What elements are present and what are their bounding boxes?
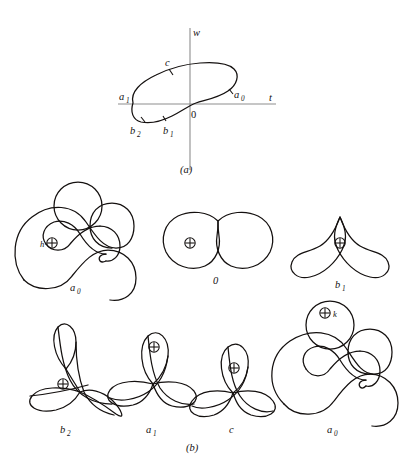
a0-first-inner-cap (99, 254, 106, 262)
a0-second-inner-cap (359, 380, 366, 388)
a1-index-marker (149, 342, 159, 352)
a0-first-label-text: a (70, 282, 75, 293)
a0-first-label: a 0 (70, 282, 81, 296)
point-label-b1-text: b (163, 125, 168, 136)
point-label-a0: a 0 (234, 89, 245, 103)
b1-label-sub: 1 (342, 285, 346, 293)
c-label: c (229, 424, 234, 435)
a1-label-sub: 1 (153, 430, 157, 438)
a0-second-label-sub: 0 (334, 430, 338, 438)
a1-label: a 1 (146, 424, 157, 438)
point-label-c: c (165, 57, 170, 68)
figure-zero: 0 (163, 212, 272, 286)
t-axis-label: t (269, 92, 273, 103)
b1-label-text: b (335, 279, 340, 290)
a1-right-loop (153, 382, 196, 407)
a0-first-outer-path (15, 203, 134, 280)
point-label-b1-sub: 1 (170, 131, 174, 139)
a0-second-marker-label: k (333, 309, 337, 319)
figure-b2: b 2 (30, 324, 122, 438)
figure-a0-second: k a 0 (272, 301, 398, 438)
tick-a0 (229, 89, 233, 94)
a0-first-index-marker (47, 238, 57, 248)
zero-label: 0 (213, 275, 219, 286)
figure-root: t w 0 a 1 b 2 b 1 c a 0 (a) (0, 0, 406, 460)
a0-second-inner-lower (306, 351, 360, 376)
point-label-b2-sub: 2 (137, 131, 141, 139)
b1-index-marker (335, 238, 345, 248)
a0-first-label-sub: 0 (77, 288, 81, 296)
zero-index-marker (185, 238, 195, 248)
a0-second-label: a 0 (327, 424, 338, 438)
b2-upper-loop (54, 324, 76, 369)
a0-first-marker-label: h (40, 239, 44, 249)
b1-label: b 1 (335, 279, 346, 293)
a0-first-outer-join (90, 226, 112, 248)
a0-second-inner-right (360, 351, 380, 386)
panel-a-curve (132, 63, 237, 123)
point-label-b2: b 2 (130, 125, 141, 139)
b2-strand-c (58, 327, 112, 404)
a0-second-top-circle (306, 301, 354, 349)
point-label-b1: b 1 (163, 125, 174, 139)
b2-label-text: b (60, 424, 65, 435)
a0-first-top-circle (54, 182, 102, 230)
tick-b2 (141, 117, 145, 122)
tick-c (169, 69, 173, 75)
c-index-marker (229, 363, 239, 373)
a0-second-label-text: a (327, 424, 332, 435)
point-label-a1-text: a (119, 91, 124, 102)
caption-b: (b) (186, 442, 199, 454)
figure-a0-first: h a 0 (15, 182, 136, 300)
b2-index-marker (58, 379, 68, 389)
zero-left-lobe (163, 212, 219, 268)
figure-a1: a 1 (108, 333, 197, 438)
b2-label: b 2 (60, 424, 71, 438)
figure-svg: t w 0 a 1 b 2 b 1 c a 0 (a) (0, 0, 406, 460)
point-label-a0-sub: 0 (241, 95, 245, 103)
b2-label-sub: 2 (67, 430, 71, 438)
c-strand-a (228, 347, 273, 412)
point-label-a1-sub: 1 (126, 97, 130, 105)
point-label-a0-text: a (234, 89, 239, 100)
origin-label: 0 (191, 109, 196, 120)
zero-right-lobe (217, 212, 273, 268)
figure-b1: b 1 (291, 217, 389, 293)
b2-left-loop (30, 388, 80, 411)
point-label-a1: a 1 (119, 91, 130, 105)
figure-c: c (190, 344, 276, 435)
w-axis-label: w (193, 27, 200, 38)
a0-second-index-marker (320, 308, 330, 318)
caption-a: (a) (180, 164, 193, 176)
point-label-b2-text: b (130, 125, 135, 136)
panel-a: t w 0 a 1 b 2 b 1 c a 0 (a) (118, 27, 276, 176)
a1-label-text: a (146, 424, 151, 435)
a1-strand-a (148, 336, 194, 404)
a0-second-outer-lower (284, 374, 398, 426)
